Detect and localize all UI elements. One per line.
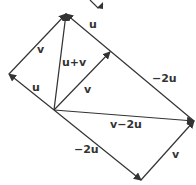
label-v-mid: v <box>84 83 92 96</box>
arrowhead-fragment <box>97 2 103 9</box>
label-neg2u-bottom: −2u <box>74 143 99 156</box>
vector-v-bottom <box>141 121 194 180</box>
label-u-plus-v: u+v <box>62 56 87 69</box>
vector-diagram: v u u+v v u −2u v−2u −2u v <box>0 0 196 185</box>
label-neg2u-top: −2u <box>152 72 177 85</box>
label-u-left: u <box>32 81 40 94</box>
label-v-bottom: v <box>172 148 180 161</box>
label-v-minus-2u: v−2u <box>110 118 142 131</box>
label-v-left: v <box>37 43 45 56</box>
label-u-top: u <box>89 18 97 31</box>
